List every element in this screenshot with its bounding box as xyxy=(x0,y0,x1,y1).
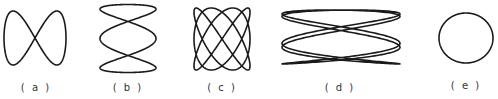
lissajous-curve-b xyxy=(100,5,156,73)
figure-label-e: ( e ) xyxy=(451,80,481,91)
lissajous-curve-d xyxy=(282,10,400,64)
figure-canvas xyxy=(0,0,498,99)
figure-label-d: ( d ) xyxy=(325,82,356,93)
figure-label-b: ( b ) xyxy=(113,82,144,93)
lissajous-curve-c xyxy=(194,8,250,70)
figure-label-c: ( c ) xyxy=(207,82,237,93)
lissajous-curve-a xyxy=(4,11,66,65)
lissajous-curve-e-circle xyxy=(439,13,493,63)
figure-label-a: ( a ) xyxy=(21,82,51,93)
